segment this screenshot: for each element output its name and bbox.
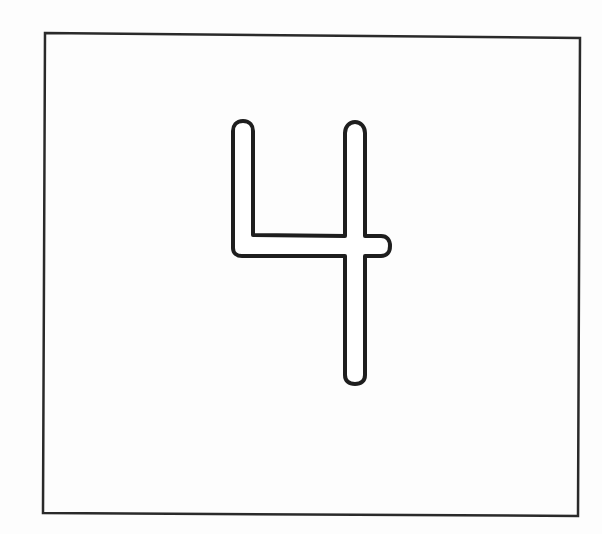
figure-canvas: 4 bbox=[0, 0, 602, 534]
numeral-four-outline bbox=[233, 121, 390, 384]
digit-drawing bbox=[0, 0, 602, 534]
square-frame bbox=[43, 33, 580, 516]
